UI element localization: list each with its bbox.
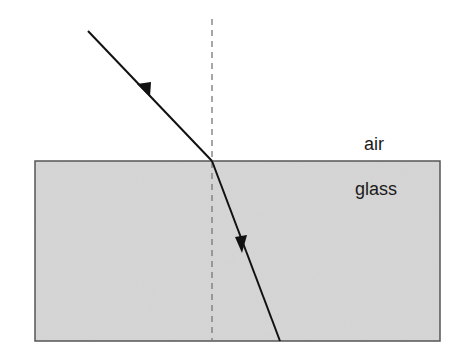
air-label: air bbox=[364, 134, 384, 154]
glass-label: glass bbox=[355, 179, 397, 199]
refraction-diagram: air glass bbox=[0, 0, 464, 359]
incident-ray bbox=[88, 31, 212, 161]
incident-arrowhead-icon bbox=[137, 82, 151, 97]
